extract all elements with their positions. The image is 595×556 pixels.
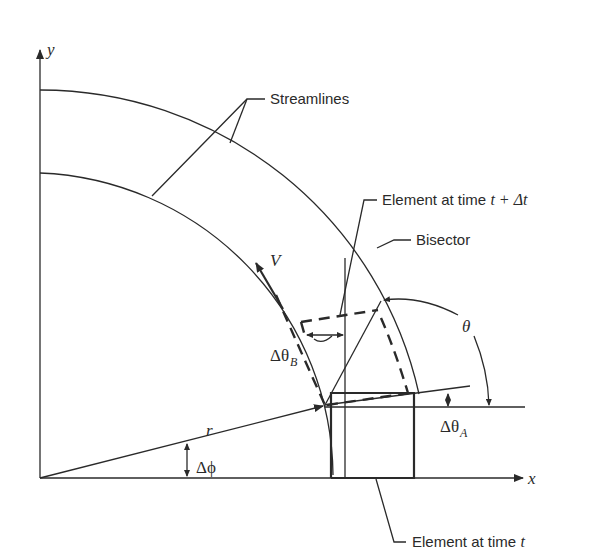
theta-label: θ bbox=[462, 317, 470, 336]
radius-vector: r Δϕ bbox=[40, 406, 323, 478]
radius-label: r bbox=[206, 421, 213, 440]
delta-theta-b-leader bbox=[314, 336, 332, 341]
axes: y x bbox=[40, 40, 536, 488]
inner-streamline bbox=[40, 173, 333, 475]
element-t-dt-label: Element at time t + Δt bbox=[382, 191, 528, 208]
element-t-dt-math: t + Δt bbox=[490, 191, 528, 208]
delta-theta-a-label: Δθ bbox=[440, 417, 459, 436]
delta-theta-b-label: Δθ bbox=[270, 346, 289, 365]
radius-line bbox=[40, 406, 323, 478]
velocity-label: V bbox=[270, 251, 283, 270]
streamlines-callout: Streamlines bbox=[152, 90, 349, 196]
element-t-dt-callout: Element at time t + Δt bbox=[340, 191, 528, 315]
streamlines-leader-branch bbox=[230, 99, 247, 143]
theta-arc-upper bbox=[384, 299, 458, 315]
element-t-math: t bbox=[520, 533, 525, 550]
element-t-dt-text: Element at time bbox=[382, 191, 490, 208]
streamlines-label: Streamlines bbox=[270, 90, 349, 107]
dashed-side-top bbox=[301, 310, 378, 322]
element-at-time-t-plus-dt bbox=[276, 295, 410, 405]
y-axis-label: y bbox=[45, 40, 55, 59]
delta-theta-a-sub: A bbox=[459, 426, 468, 440]
bisector-callout: Bisector bbox=[377, 231, 470, 248]
dashed-side-right bbox=[381, 318, 408, 393]
element-at-time-t bbox=[331, 393, 414, 478]
theta-arc-lower bbox=[474, 336, 489, 405]
streamlines-leader bbox=[152, 99, 265, 196]
delta-theta-b-sub: B bbox=[290, 355, 298, 369]
x-axis-label: x bbox=[527, 469, 536, 488]
bisector-label: Bisector bbox=[416, 231, 470, 248]
bisector-line bbox=[325, 301, 381, 405]
element-t-callout: Element at time t bbox=[376, 479, 525, 550]
delta-theta-a: Δθ A bbox=[440, 394, 468, 440]
streamlines bbox=[40, 90, 419, 475]
element-t-label: Element at time t bbox=[412, 533, 525, 550]
reference-lines bbox=[325, 258, 525, 478]
bisector-leader bbox=[377, 240, 411, 248]
element-t-text: Element at time bbox=[412, 533, 520, 550]
element-t-leader bbox=[376, 479, 406, 542]
streamline-element-rotation-diagram: y x Streamlines r Δϕ V bbox=[0, 0, 595, 556]
dashed-side-left-top bbox=[301, 322, 305, 336]
element-t-rect bbox=[331, 393, 414, 478]
delta-phi-label: Δϕ bbox=[196, 458, 216, 477]
theta-angle: θ bbox=[384, 299, 489, 405]
outer-streamline bbox=[40, 90, 419, 394]
